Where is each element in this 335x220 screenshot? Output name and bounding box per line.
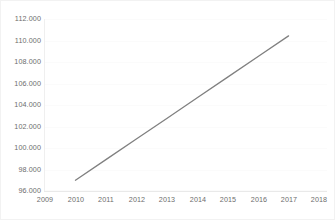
chart-container: 112.000 110.000 108.000 106.000 104.000 … xyxy=(0,0,335,220)
series-line-chart xyxy=(1,1,335,220)
series-line-path xyxy=(75,36,288,180)
